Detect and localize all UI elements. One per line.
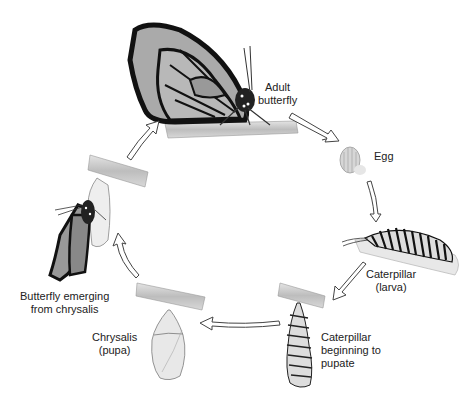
arrow-pupa-to-emerging bbox=[113, 233, 139, 278]
label-line: Caterpillar bbox=[321, 331, 381, 344]
label-line: Caterpillar bbox=[366, 268, 416, 281]
label-line: from chrysalis bbox=[20, 303, 109, 316]
life-cycle-diagram bbox=[0, 0, 476, 406]
label-chrysalis-pupa: Chrysalis (pupa) bbox=[92, 331, 137, 357]
arrow-emerging-to-adult bbox=[127, 121, 159, 160]
prepupa-branch bbox=[278, 283, 325, 308]
label-line: beginning to bbox=[321, 344, 381, 357]
label-line: (pupa) bbox=[92, 344, 137, 357]
arrow-prepupa-to-pupa bbox=[200, 317, 280, 330]
egg-illustration bbox=[340, 147, 366, 175]
label-line: Chrysalis bbox=[92, 331, 137, 344]
arrow-larva-to-prepupa bbox=[333, 262, 366, 300]
label-line: pupate bbox=[321, 357, 381, 370]
prepupa-illustration bbox=[287, 303, 312, 387]
label-egg: Egg bbox=[374, 150, 394, 163]
label-adult-butterfly: Adult butterfly bbox=[258, 81, 297, 107]
arrow-egg-to-larva bbox=[367, 181, 381, 222]
chrysalis-illustration bbox=[152, 310, 185, 380]
label-line: butterfly bbox=[258, 94, 297, 107]
emerging-butterfly-illustration bbox=[50, 178, 110, 280]
label-caterpillar-larva: Caterpillar (larva) bbox=[366, 268, 416, 294]
label-caterpillar-pupate: Caterpillar beginning to pupate bbox=[321, 331, 381, 370]
label-line: (larva) bbox=[366, 281, 416, 294]
pupa-branch bbox=[136, 283, 205, 310]
label-line: Butterfly emerging bbox=[20, 290, 109, 303]
adult-butterfly-illustration bbox=[130, 25, 270, 125]
label-line: Adult bbox=[258, 81, 297, 94]
label-butterfly-emerging: Butterfly emerging from chrysalis bbox=[20, 290, 109, 316]
label-line: Egg bbox=[374, 150, 394, 163]
